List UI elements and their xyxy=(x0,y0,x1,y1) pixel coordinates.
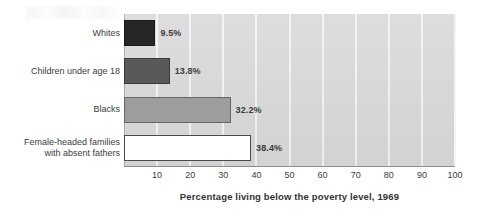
category-label-1: Children under age 18 xyxy=(0,66,120,77)
bar-1[interactable] xyxy=(124,58,170,84)
bar-3[interactable] xyxy=(124,135,251,161)
bar-2[interactable] xyxy=(124,97,231,123)
bar-row: 9.5% xyxy=(124,20,455,46)
bar-0[interactable] xyxy=(124,20,155,46)
bar-value-label: 13.8% xyxy=(175,66,201,76)
bar-row: 32.2% xyxy=(124,97,455,123)
x-tick-label-10: 10 xyxy=(152,170,162,180)
x-axis-title: Percentage living below the poverty leve… xyxy=(124,191,455,202)
bar-value-label: 38.4% xyxy=(256,143,282,153)
bar-row: 38.4% xyxy=(124,135,455,161)
bar-value-label: 9.5% xyxy=(160,28,181,38)
bar-row: 13.8% xyxy=(124,58,455,84)
x-tick-label-50: 50 xyxy=(284,170,294,180)
bar-chart: 9.5%13.8%32.2%38.4% WhitesChildren under… xyxy=(0,0,486,216)
x-tick-label-30: 30 xyxy=(218,170,228,180)
x-tick-label-80: 80 xyxy=(384,170,394,180)
category-label-2: Blacks xyxy=(0,104,120,115)
x-tick-label-60: 60 xyxy=(318,170,328,180)
category-label-3: Female-headed families with absent fathe… xyxy=(0,137,120,159)
x-tick-label-70: 70 xyxy=(351,170,361,180)
bars-layer: 9.5%13.8%32.2%38.4% xyxy=(124,14,455,167)
x-tick-label-90: 90 xyxy=(417,170,427,180)
category-label-0: Whites xyxy=(0,28,120,39)
x-tick-label-100: 100 xyxy=(447,170,462,180)
x-tick-label-20: 20 xyxy=(185,170,195,180)
bar-value-label: 32.2% xyxy=(236,105,262,115)
category-axis-labels: WhitesChildren under age 18BlacksFemale-… xyxy=(0,14,120,167)
x-tick-label-40: 40 xyxy=(251,170,261,180)
